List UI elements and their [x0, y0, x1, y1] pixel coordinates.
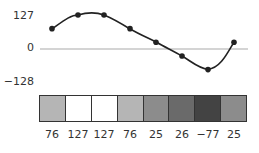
waveform-plot: [0, 0, 259, 95]
strip-value-labels: 76127127762526−7725: [39, 128, 247, 141]
strip-cell: [118, 96, 144, 121]
data-points: [49, 12, 237, 72]
data-point: [231, 40, 237, 46]
strip-value: 127: [91, 128, 117, 141]
strip-cell: [144, 96, 170, 121]
strip-value: 76: [117, 128, 143, 141]
data-point: [49, 26, 55, 32]
strip-cell: [92, 96, 118, 121]
strip-value: 25: [143, 128, 169, 141]
data-point: [179, 53, 185, 59]
waveform-curve: [52, 13, 234, 69]
data-point: [127, 26, 133, 32]
strip-value: 25: [221, 128, 247, 141]
grayscale-strip: [39, 95, 247, 122]
strip-cell: [221, 96, 246, 121]
strip-cell: [40, 96, 66, 121]
data-point: [75, 12, 81, 18]
strip-value: 26: [169, 128, 195, 141]
strip-value: 76: [39, 128, 65, 141]
data-point: [153, 40, 159, 46]
strip-value: −77: [195, 128, 221, 141]
strip-cell: [169, 96, 195, 121]
strip-cell: [66, 96, 92, 121]
strip-cell: [195, 96, 221, 121]
data-point: [205, 67, 211, 73]
data-point: [101, 12, 107, 18]
strip-value: 127: [65, 128, 91, 141]
